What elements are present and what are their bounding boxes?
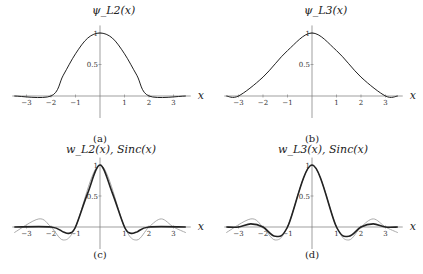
y-tick-label: 0.5 bbox=[299, 61, 310, 69]
x-tick-label: −3 bbox=[21, 230, 31, 238]
y-tick-label: 0.5 bbox=[299, 193, 310, 201]
x-tick-label: 2 bbox=[147, 230, 151, 238]
x-tick-label: −3 bbox=[233, 99, 243, 107]
panel-b: −3−2−11230.51xψ_L3(x)(b) bbox=[224, 4, 417, 144]
panel-title: w_L2(x), Sinc(x) bbox=[66, 143, 156, 156]
panel-title: ψ_L2(x) bbox=[92, 4, 135, 17]
x-tick-label: 3 bbox=[383, 99, 387, 107]
panel-c: −3−2−11230.51xw_L2(x), Sinc(x)(c) bbox=[12, 143, 205, 260]
x-axis-label: x bbox=[198, 220, 205, 233]
x-tick-label: 3 bbox=[171, 230, 175, 238]
figure: −3−2−11230.51xψ_L2(x)(a)−3−2−11230.51xψ_… bbox=[0, 0, 423, 274]
x-tick-label: 2 bbox=[147, 99, 151, 107]
x-tick-label: −1 bbox=[70, 99, 80, 107]
x-tick-label: −1 bbox=[282, 99, 292, 107]
x-axis-label: x bbox=[410, 220, 417, 233]
x-tick-label: 2 bbox=[359, 99, 363, 107]
panel-d: −3−2−11230.51xw_L3(x), Sinc(x)(d) bbox=[224, 143, 417, 260]
panel-title: ψ_L3(x) bbox=[304, 4, 347, 17]
y-tick-label: 0.5 bbox=[87, 61, 98, 69]
panel-caption: (d) bbox=[305, 249, 319, 260]
x-axis-label: x bbox=[198, 89, 205, 102]
x-tick-label: 2 bbox=[359, 230, 363, 238]
x-tick-label: 1 bbox=[334, 99, 338, 107]
panel-title: w_L3(x), Sinc(x) bbox=[278, 143, 368, 156]
x-tick-label: −3 bbox=[21, 99, 31, 107]
x-tick-label: 3 bbox=[383, 230, 387, 238]
x-tick-label: −2 bbox=[258, 99, 268, 107]
panel-a: −3−2−11230.51xψ_L2(x)(a) bbox=[12, 4, 205, 144]
y-tick-label: 0.5 bbox=[87, 193, 98, 201]
x-tick-label: 1 bbox=[122, 99, 126, 107]
x-tick-label: 3 bbox=[171, 99, 175, 107]
x-axis-label: x bbox=[410, 89, 417, 102]
x-tick-label: −2 bbox=[46, 99, 56, 107]
panel-caption: (c) bbox=[93, 249, 107, 260]
x-tick-label: −3 bbox=[233, 230, 243, 238]
